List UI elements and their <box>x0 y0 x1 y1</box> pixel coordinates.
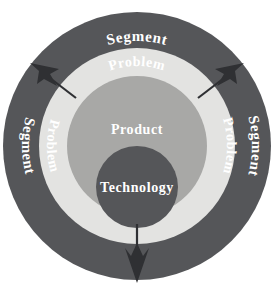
concentric-rings-diagram: Segment Segment Segment Problem Problem … <box>0 0 274 293</box>
label-technology: Technology <box>100 180 174 195</box>
label-product: Product <box>111 122 163 137</box>
diagram-canvas: Segment Segment Segment Problem Problem … <box>0 0 274 293</box>
